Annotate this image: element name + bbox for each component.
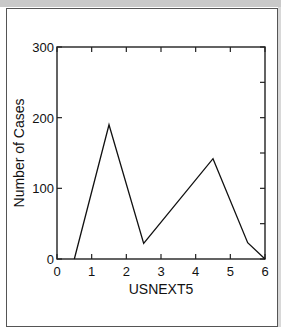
- line-chart: 0123456 0100200300 USNEXT5 Number of Cas…: [0, 0, 281, 336]
- y-tick-label: 300: [32, 40, 54, 55]
- x-axis: 0123456: [53, 47, 268, 279]
- x-tick-label: 1: [88, 264, 95, 279]
- x-tick-label: 6: [261, 264, 268, 279]
- y-axis-label: Number of Cases: [11, 99, 27, 208]
- x-tick-label: 5: [227, 264, 234, 279]
- x-axis-label: USNEXT5: [129, 281, 194, 297]
- data-series-line: [74, 125, 265, 259]
- y-tick-label: 200: [32, 111, 54, 126]
- y-tick-label: 0: [47, 252, 54, 267]
- x-tick-label: 0: [53, 264, 60, 279]
- plot-area: [57, 47, 265, 259]
- y-tick-label: 100: [32, 181, 54, 196]
- y-axis: 0100200300: [32, 40, 265, 267]
- x-tick-label: 4: [192, 264, 199, 279]
- x-tick-label: 2: [123, 264, 130, 279]
- x-tick-label: 3: [157, 264, 164, 279]
